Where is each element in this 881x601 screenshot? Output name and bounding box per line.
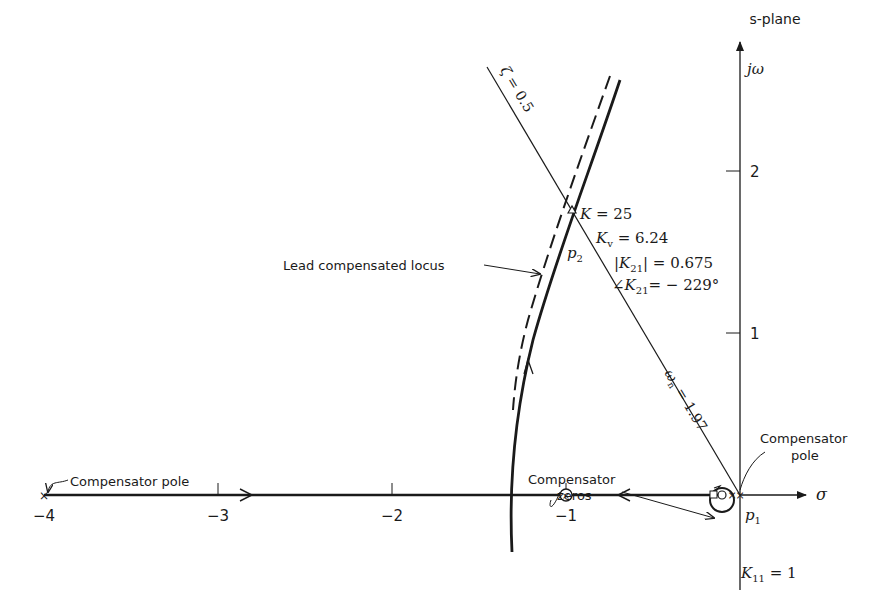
natural-frequency-label: ωn = 1.97 xyxy=(660,366,711,434)
k21-angle-label: ∠K21= − 229° xyxy=(612,276,719,296)
real-axis-label: σ xyxy=(816,485,828,504)
x-tick-label: −4 xyxy=(33,507,55,525)
compensator-zeros-annotation-line1: Compensator xyxy=(528,472,616,487)
p1-label: p1 xyxy=(745,506,761,526)
lead-locus-annotation: Lead compensated locus xyxy=(283,258,445,273)
small-square-marker xyxy=(710,491,717,498)
s-plane-title: s-plane xyxy=(749,11,800,27)
y-tick-label: 1 xyxy=(750,325,760,343)
y-ticks: 12 xyxy=(726,163,760,343)
k21-magnitude-label: |K21| = 0.675 xyxy=(614,254,713,274)
annotation-leader xyxy=(48,480,68,492)
kv-label: Kv = 6.24 xyxy=(595,229,668,249)
gain-k-label: K = 25 xyxy=(579,205,632,223)
compensator-pole-left-marker: × xyxy=(39,489,49,503)
x-tick-label: −2 xyxy=(381,507,403,525)
damping-ratio-label: ζ = 0.5 xyxy=(497,63,537,115)
compensator-zeros-annotation-line2: zeros xyxy=(557,488,592,503)
x-ticks: −4−3−2−1 xyxy=(33,483,577,525)
open-loop-zero-marker xyxy=(718,491,726,499)
compensator-pole-left-annotation: Compensator pole xyxy=(70,474,189,489)
k11-label: K11 = 1 xyxy=(740,564,797,584)
y-tick-label: 2 xyxy=(750,163,760,181)
x-tick-label: −3 xyxy=(207,507,229,525)
imaginary-axis-label: jω xyxy=(744,60,764,78)
x-tick-label: −1 xyxy=(555,507,577,525)
p2-label: p2 xyxy=(567,244,583,264)
compensator-pole-right-annotation-line1: Compensator xyxy=(760,431,848,446)
annotation-leader xyxy=(484,265,540,274)
compensator-pole-right-annotation-line2: pole xyxy=(791,448,819,463)
pole-marker: × xyxy=(735,489,744,502)
annotation-leader xyxy=(740,452,765,490)
root-locus-diagram: s-plane jω σ −4−3−2−1 12 ζ = 0.5 ωn = 1.… xyxy=(0,0,881,601)
